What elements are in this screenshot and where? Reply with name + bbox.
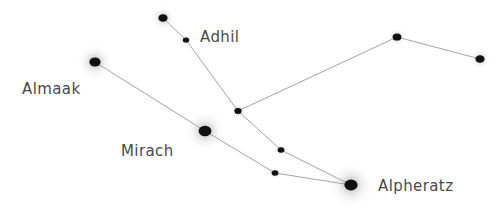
star-point-pi-and[interactable] [272,170,279,176]
star-point-almaak[interactable] [89,57,100,66]
label-almaak: Almaak [22,82,81,97]
star-point-upsilon-and[interactable] [393,33,402,40]
star-points-layer [89,14,484,190]
star-point-adhil-top[interactable] [158,14,167,22]
constellation-chart: AdhilAlmaakMirachAlpheratz [0,0,504,215]
constellation-line-adhil-to-junction [186,40,238,111]
label-mirach: Mirach [121,144,174,159]
constellation-line-junction-to-delta-and [238,111,281,150]
label-adhil: Adhil [200,30,239,45]
star-point-51-and[interactable] [475,55,484,63]
constellation-line-upsilon-and-to-51-and [397,37,480,59]
constellation-line-junction-to-upsilon-and [238,37,397,111]
star-point-mirach[interactable] [199,126,212,136]
star-point-junction[interactable] [234,108,241,114]
star-point-delta-and[interactable] [278,147,285,153]
star-point-alpheratz[interactable] [344,180,357,191]
label-alpheratz: Alpheratz [378,179,453,194]
star-point-adhil[interactable] [183,37,189,42]
